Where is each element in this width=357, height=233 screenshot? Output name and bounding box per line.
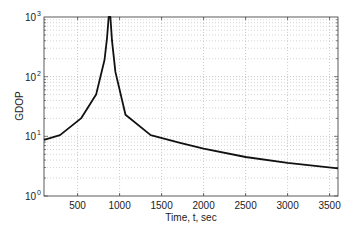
y-tick-label: 10	[25, 12, 37, 23]
x-tick-label: 3000	[276, 200, 299, 211]
y-tick-label: 10	[25, 72, 37, 83]
x-tick-label: 1500	[150, 200, 173, 211]
y-tick-labels: 100101102103	[25, 10, 41, 202]
y-tick-label: 10	[25, 131, 37, 142]
x-tick-label: 1000	[108, 200, 131, 211]
y-tick-exponent: 3	[37, 10, 41, 17]
gdop-chart: 500100015002000250030003500 100101102103…	[0, 0, 357, 233]
x-tick-label: 2000	[192, 200, 215, 211]
y-tick-label: 10	[25, 191, 37, 202]
x-tick-label: 500	[69, 200, 86, 211]
y-axis-label: GDOP	[14, 91, 25, 121]
y-tick-exponent: 0	[37, 189, 41, 196]
x-tick-label: 2500	[234, 200, 257, 211]
y-tick-exponent: 1	[37, 129, 41, 136]
y-tick-exponent: 2	[37, 70, 41, 77]
x-axis-label: Time, t, sec	[165, 212, 216, 223]
x-tick-labels: 500100015002000250030003500	[69, 200, 341, 211]
x-tick-label: 3500	[318, 200, 341, 211]
